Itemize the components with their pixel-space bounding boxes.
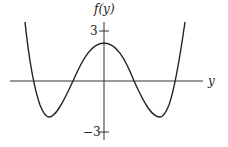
tick-label-neg3: −3 <box>83 125 101 139</box>
curve-f <box>25 22 185 117</box>
tick-label-3: 3 <box>90 24 98 38</box>
y-axis-label: f(y) <box>94 2 115 16</box>
x-axis-label: y <box>208 74 215 88</box>
plot-area <box>0 0 228 147</box>
chart: f(y) y 3 −3 <box>0 0 228 147</box>
